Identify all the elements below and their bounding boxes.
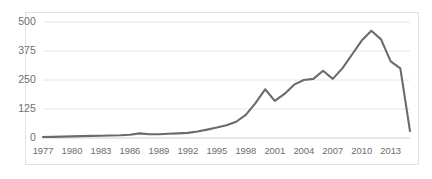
y-axis-tick-label: 125 (2, 102, 36, 114)
gridlines-group (43, 22, 410, 138)
x-axis-tick-label: 1998 (230, 145, 262, 156)
x-axis-tick-label: 1992 (172, 145, 204, 156)
y-axis-tick-label: 500 (2, 15, 36, 27)
x-axis-tick-label: 2013 (375, 145, 407, 156)
y-axis-tick-label: 250 (2, 73, 36, 85)
x-axis-tick-label: 1980 (56, 145, 88, 156)
x-axis-tick-label: 1983 (85, 145, 117, 156)
chart-container: 0125250375500 19771980198319861989199219… (0, 0, 432, 179)
x-axis-tick-label: 2001 (259, 145, 291, 156)
data-series-line (43, 31, 410, 137)
x-axis-tick-label: 2007 (317, 145, 349, 156)
x-axis-tick-label: 1995 (201, 145, 233, 156)
x-axis-tick-label: 2010 (346, 145, 378, 156)
x-axis-tick-label: 1977 (27, 145, 59, 156)
y-axis-tick-label: 0 (2, 131, 36, 143)
x-axis-tick-label: 2004 (288, 145, 320, 156)
y-axis-tick-label: 375 (2, 44, 36, 56)
x-axis-tick-label: 1989 (143, 145, 175, 156)
x-axis-tick-label: 1986 (114, 145, 146, 156)
